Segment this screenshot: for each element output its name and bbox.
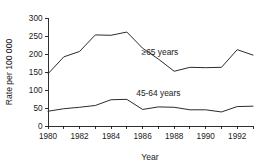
- y-tick-label: 100: [29, 86, 43, 95]
- x-axis-title: Year: [141, 152, 159, 162]
- series-line-2: [48, 99, 253, 112]
- series-label-1: ≥65 years: [142, 47, 179, 57]
- series-label-2: 45-64 years: [136, 88, 180, 98]
- y-tick-label: 0: [38, 122, 43, 131]
- data-series-group: [48, 32, 253, 112]
- x-tick-label: 1982: [70, 132, 89, 141]
- x-tick-label: 1986: [134, 132, 153, 141]
- y-axis: 050100150200250300: [29, 14, 48, 131]
- y-tick-label: 150: [29, 68, 43, 77]
- x-tick-label: 1992: [228, 132, 247, 141]
- y-axis-title: Rate per 100 000: [4, 39, 14, 106]
- y-tick-label: 300: [29, 14, 43, 23]
- line-chart: 050100150200250300 198019821984198619881…: [0, 0, 274, 165]
- y-tick-label: 200: [29, 50, 43, 59]
- x-tick-label: 1990: [197, 132, 216, 141]
- x-tick-label: 1988: [165, 132, 184, 141]
- x-tick-label: 1980: [39, 132, 58, 141]
- chart-figure: 050100150200250300 198019821984198619881…: [0, 0, 274, 165]
- x-axis: 1980198219841986198819901992: [39, 126, 253, 141]
- y-tick-label: 250: [29, 32, 43, 41]
- y-tick-label: 50: [33, 104, 43, 113]
- x-tick-label: 1984: [102, 132, 121, 141]
- series-label-group: ≥65 years45-64 years: [136, 47, 180, 97]
